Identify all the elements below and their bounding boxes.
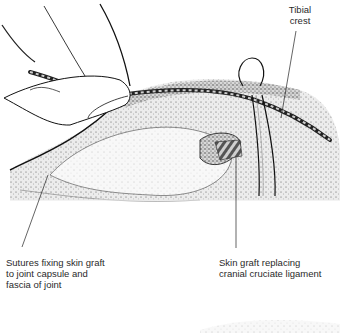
label-sutures: Sutures fixing skin graft to joint capsu… — [6, 257, 105, 290]
label-tibial-crest: Tibial crest — [275, 4, 325, 26]
hand — [4, 4, 130, 125]
suture-threads — [2, 6, 85, 76]
next-illustration-fragment — [200, 320, 340, 333]
label-skin-graft: Skin graft replacing cranial cruciate li… — [219, 257, 321, 279]
skin-graft — [215, 140, 242, 160]
